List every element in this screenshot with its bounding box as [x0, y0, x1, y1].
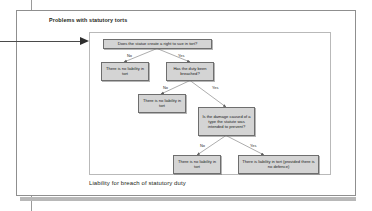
screenshot-root: Problems with statutory torts Does the s…	[0, 0, 372, 211]
diagram-caption: Liability for breach of statutory duty	[89, 180, 186, 186]
callout-arrow-icon	[80, 37, 89, 45]
node-n1-label: There is no liability in tort	[104, 66, 146, 76]
node-q2[interactable]: Has the duty been breached?	[166, 62, 214, 81]
node-n2-label: There is no liability in tort	[141, 98, 183, 108]
page-shadow-right	[356, 14, 360, 201]
diagram-frame	[89, 32, 331, 175]
page-shadow	[20, 197, 360, 201]
edge-label-l3-yes: Yes	[250, 143, 256, 148]
page-title: Problems with statutory torts	[49, 17, 127, 23]
node-q2-label: Has the duty been breached?	[169, 66, 211, 76]
node-q1[interactable]: Does the statue create a right to sue in…	[103, 39, 212, 50]
node-q1-label: Does the statue create a right to sue in…	[106, 41, 209, 46]
edge-label-l2-no: No	[163, 85, 168, 90]
callout-arrow-line	[0, 41, 82, 42]
node-n1[interactable]: There is no liability in tort	[101, 62, 149, 81]
node-n3[interactable]: There is no liability in tort	[173, 155, 221, 174]
node-n2[interactable]: There is no liability in tort	[138, 94, 186, 113]
edge-label-l1-yes: Yes	[178, 53, 184, 58]
node-q3-label: Is the damage caused of a type the statu…	[201, 114, 252, 129]
edge-label-l3-no: No	[200, 143, 205, 148]
node-q3[interactable]: Is the damage caused of a type the statu…	[198, 107, 255, 136]
node-n3-label: There is no liability in tort	[176, 159, 218, 169]
node-n4-label: There is liability in tort (provided the…	[241, 159, 316, 169]
edge-label-l1-no: No	[127, 53, 132, 58]
edge-label-l2-yes: Yes	[212, 85, 218, 90]
node-n4[interactable]: There is liability in tort (provided the…	[238, 155, 319, 174]
